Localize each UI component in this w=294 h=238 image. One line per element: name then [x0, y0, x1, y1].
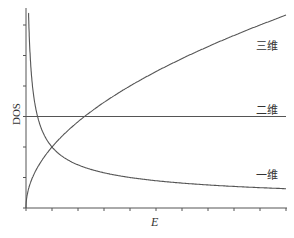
label-1d: 一维 [256, 166, 278, 182]
x-axis-label: E [151, 215, 158, 230]
dos-chart [0, 0, 294, 238]
y-axis-label: DOS [10, 99, 22, 129]
label-2d: 二维 [256, 101, 278, 117]
curve-3d [26, 15, 286, 208]
curves [26, 13, 286, 208]
label-3d: 三维 [256, 37, 278, 53]
curve-1d [29, 13, 287, 189]
